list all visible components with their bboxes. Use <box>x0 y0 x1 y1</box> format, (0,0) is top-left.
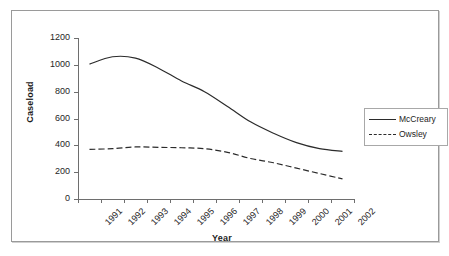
x-tick-label: 2001 <box>332 206 353 227</box>
y-tick-label: 800 <box>55 86 70 96</box>
x-tick-label: 1994 <box>171 206 192 227</box>
plot-area: 1991199219931994199519961997199819992000… <box>78 38 354 199</box>
x-tick-label: 1992 <box>125 206 146 227</box>
y-tick-label: 400 <box>55 139 70 149</box>
legend-item-owsley: Owsley <box>369 127 427 141</box>
series-line-owsley <box>90 147 343 179</box>
legend-swatch-dashed <box>369 134 396 135</box>
y-axis-ticks: 020040060080010001200 <box>12 11 78 241</box>
x-tick-label: 1995 <box>194 206 215 227</box>
legend-swatch-solid <box>369 119 396 120</box>
chart-legend: McCreary Owsley <box>364 108 448 146</box>
legend-label-mccreary: McCreary <box>399 114 436 124</box>
x-tick-label: 1993 <box>148 206 169 227</box>
x-tick-label: 1996 <box>217 206 238 227</box>
x-tick-label: 2002 <box>355 206 376 227</box>
y-tick-label: 0 <box>65 193 70 203</box>
x-tick-label: 2000 <box>309 206 330 227</box>
x-tick-label: 1991 <box>102 206 123 227</box>
x-axis-title: Year <box>132 233 312 243</box>
series-line-mccreary <box>90 56 343 151</box>
y-tick-label: 1000 <box>50 59 70 69</box>
x-tick-label: 1997 <box>240 206 261 227</box>
legend-item-mccreary: McCreary <box>369 112 436 126</box>
chart-frame: Caseload Year 020040060080010001200 1991… <box>11 10 439 242</box>
y-tick-label: 200 <box>55 166 70 176</box>
series-lines <box>78 38 355 200</box>
x-tick-label: 1998 <box>263 206 284 227</box>
legend-label-owsley: Owsley <box>399 129 427 139</box>
x-tick-label: 1999 <box>286 206 307 227</box>
y-tick-label: 600 <box>55 113 70 123</box>
chart-figure: Caseload Year 020040060080010001200 1991… <box>0 0 449 256</box>
y-tick-label: 1200 <box>50 32 70 42</box>
